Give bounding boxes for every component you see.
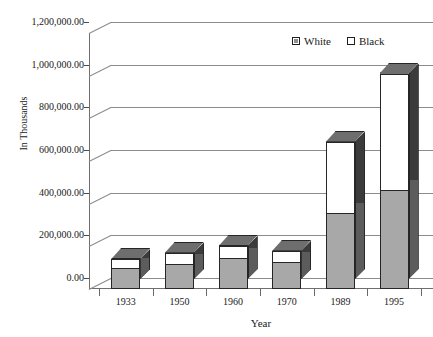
bar-front-face — [272, 251, 301, 289]
y-axis-tick-label: 600,000.00 — [0, 145, 84, 155]
plot-area — [89, 22, 433, 289]
x-axis-title: Year — [89, 317, 433, 329]
x-axis-tick-label-1950: 1950 — [155, 296, 203, 307]
bar-side-segment-white — [249, 248, 257, 280]
x-axis-tick-separator — [421, 288, 422, 296]
bar-segment-black[interactable] — [273, 252, 300, 262]
bar-column-1960[interactable] — [219, 236, 258, 289]
legend-label: White — [304, 35, 331, 47]
bar-column-1933[interactable] — [111, 249, 150, 289]
bar-column-1950[interactable] — [165, 243, 204, 289]
bar-segment-white[interactable] — [273, 262, 300, 289]
bar-column-1995[interactable] — [380, 64, 419, 289]
bar-segment-black[interactable] — [220, 247, 247, 258]
y-axis-tick-label: 800,000.00 — [0, 102, 84, 112]
bar-front-face — [111, 259, 140, 289]
bar-column-1989[interactable] — [326, 132, 365, 289]
bar-side-segment-white — [195, 254, 203, 280]
bar-front-face — [219, 246, 248, 289]
y-axis-tick-label: 1,000,000.00 — [0, 60, 84, 70]
bar-side-face — [409, 64, 419, 279]
bar-segment-black[interactable] — [381, 75, 408, 190]
y-axis-tick-label: 0.00 — [0, 273, 84, 283]
bar-side-segment-black — [356, 133, 364, 203]
bar-side-segment-white — [302, 252, 310, 280]
x-axis-tick-separator — [367, 288, 368, 296]
gridline-depth-edge — [89, 107, 111, 119]
bar-side-segment-black — [410, 65, 418, 180]
white-filled-square-icon — [347, 37, 355, 45]
gridline-depth-edge — [89, 150, 111, 162]
bar-side-face — [355, 132, 365, 279]
gridline-depth-edge — [89, 235, 111, 247]
bar-segment-white[interactable] — [327, 213, 354, 289]
gray-filled-square-icon — [292, 37, 300, 45]
bar-segment-white[interactable] — [381, 190, 408, 289]
x-axis-tick-labels: 193319501960197019891995 — [89, 296, 433, 312]
x-axis-tick-separator — [99, 288, 100, 296]
y-axis-tick-label: 200,000.00 — [0, 230, 84, 240]
bar-side-segment-white — [356, 203, 364, 280]
x-axis-tick-separator — [206, 288, 207, 296]
bar-segment-black[interactable] — [166, 254, 193, 264]
gridline-depth-edge — [89, 193, 111, 205]
bar-segment-white[interactable] — [166, 264, 193, 289]
bar-front-face — [165, 253, 194, 289]
gridline-depth-edge — [89, 22, 111, 34]
bar-side-segment-white — [141, 258, 149, 280]
y-axis-title: In Thousands — [18, 79, 29, 169]
y-axis-tick-label: 1,200,000.00 — [0, 17, 84, 27]
chart-legend: WhiteBlack — [292, 33, 385, 48]
bar-segment-white[interactable] — [112, 268, 139, 289]
x-axis-tick-label-1933: 1933 — [102, 296, 150, 307]
x-axis-tick-separator — [314, 288, 315, 296]
gridline-depth-edge — [89, 65, 111, 77]
bar-front-face — [380, 74, 409, 289]
x-axis-tick-label-1960: 1960 — [209, 296, 257, 307]
x-axis-tick-label-1995: 1995 — [370, 296, 418, 307]
y-axis-tick-label: 400,000.00 — [0, 188, 84, 198]
legend-item-black[interactable]: Black — [347, 35, 385, 47]
x-axis-tick-separator — [153, 288, 154, 296]
bar-chart: 0.00200,000.00400,000.00600,000.00800,00… — [0, 0, 433, 337]
bar-segment-black[interactable] — [327, 143, 354, 213]
x-axis-tick-separator — [260, 288, 261, 296]
gridline — [111, 22, 433, 23]
y-axis-tick-labels: 0.00200,000.00400,000.00600,000.00800,00… — [0, 0, 84, 337]
legend-label: Black — [359, 35, 385, 47]
x-axis-tick-label-1970: 1970 — [263, 296, 311, 307]
bar-front-face — [326, 142, 355, 289]
bar-side-segment-white — [410, 180, 418, 280]
bar-column-1970[interactable] — [272, 241, 311, 289]
bar-segment-black[interactable] — [112, 260, 139, 268]
bar-segment-white[interactable] — [220, 258, 247, 289]
x-axis-tick-label-1989: 1989 — [316, 296, 364, 307]
legend-item-white[interactable]: White — [292, 35, 331, 47]
